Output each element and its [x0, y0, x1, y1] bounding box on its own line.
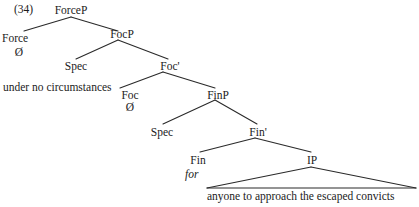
node-focp: FocP	[110, 28, 134, 40]
triangle-right-edge	[311, 167, 416, 188]
example-number: (34)	[14, 3, 33, 15]
node-spec-finp: Spec	[151, 126, 173, 138]
terminal-ip-text: anyone to approach the escaped convicts	[207, 190, 394, 202]
terminal-fin-text: for	[185, 168, 198, 180]
branch-focp-spec	[76, 40, 118, 59]
node-fin-bar: Fin'	[249, 126, 266, 138]
node-ip: IP	[307, 154, 317, 166]
branch-forcep-force	[24, 17, 71, 31]
branch-focp-focbar	[118, 40, 168, 59]
branch-finbar-ip	[255, 138, 311, 152]
terminal-foc-null: Ø	[126, 101, 134, 113]
node-foc-bar: Foc'	[160, 60, 179, 72]
branch-focbar-finp	[163, 72, 215, 88]
node-forcep: ForceP	[55, 4, 88, 16]
node-fin: Fin	[190, 154, 205, 166]
terminal-force-null: Ø	[15, 46, 23, 58]
node-foc: Foc	[121, 89, 138, 101]
branch-finp-finbar	[215, 100, 257, 124]
branch-finbar-fin	[200, 138, 255, 152]
terminal-spec-focp-text: under no circumstances	[3, 81, 112, 93]
node-spec-focp: Spec	[65, 60, 87, 72]
branch-focbar-foc	[120, 72, 163, 88]
node-force: Force	[2, 32, 28, 44]
branch-finp-spec	[163, 100, 215, 124]
triangle-left-edge	[207, 167, 311, 188]
syntax-tree-figure: (34) ForceP Force Ø FocP Spec under no c…	[0, 0, 419, 207]
node-finp: FinP	[207, 89, 229, 101]
tree-branch-lines	[0, 0, 419, 207]
